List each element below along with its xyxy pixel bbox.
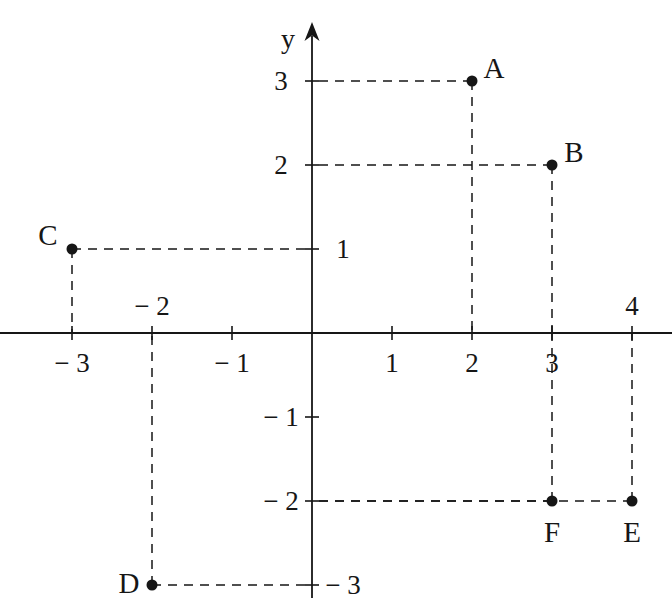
- x-tick-label--2: − 2: [134, 293, 169, 320]
- y-tick-label--1: − 1: [263, 404, 298, 431]
- x-tick-label-1: 1: [385, 350, 399, 377]
- y-axis-name-label: y: [281, 25, 295, 53]
- x-tick-label--1: − 1: [214, 350, 249, 377]
- axes: [0, 22, 672, 598]
- y-tick-label-2: 2: [274, 152, 288, 179]
- point-dot-F: [547, 496, 558, 507]
- point-label-F: F: [544, 518, 560, 547]
- y-tick-label-3: 3: [274, 68, 288, 95]
- point-dot-B: [547, 160, 558, 171]
- point-dot-A: [467, 76, 478, 87]
- point-dot-C: [67, 244, 78, 255]
- point-dot-E: [627, 496, 638, 507]
- x-tick-label-3: 3: [545, 350, 559, 377]
- y-tick-label--2: − 2: [263, 488, 298, 515]
- x-tick-label-2: 2: [465, 350, 479, 377]
- point-label-C: C: [38, 221, 57, 250]
- point-label-B: B: [564, 138, 583, 167]
- point-dot-D: [147, 580, 158, 591]
- y-tick-label-1: 1: [336, 236, 350, 263]
- point-label-D: D: [119, 569, 140, 598]
- y-tick-label--3: − 3: [325, 572, 360, 598]
- x-tick-label-4: 4: [625, 293, 639, 320]
- x-tick-label--3: − 3: [54, 350, 89, 377]
- coordinate-plane-figure: [0, 0, 672, 598]
- point-label-E: E: [623, 518, 641, 547]
- point-label-A: A: [484, 54, 505, 83]
